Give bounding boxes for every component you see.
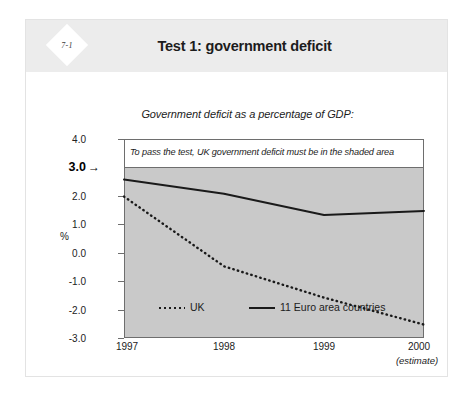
screenshot-root: 7-1 Test 1: government deficit Governmen… [0,0,473,397]
legend-label-euro: 11 Euro area countries [280,301,385,313]
page-title: Test 1: government deficit [26,20,447,72]
chart-series-svg [26,72,447,376]
x-tick-2000: 2000 [408,341,430,352]
series-euro-line [124,180,424,216]
card-header: 7-1 Test 1: government deficit [26,20,447,72]
legend-item-uk: UK [159,301,205,313]
slide-card: 7-1 Test 1: government deficit Governmen… [26,20,447,376]
card-body: Government deficit as a percentage of GD… [26,72,447,376]
legend-swatch-dotted-icon [159,302,185,312]
x-tick-1999: 1999 [313,341,335,352]
x-tick-2000-note: (estimate) [396,355,438,366]
y-tick-marks [118,140,124,339]
line-chart: To pass the test, UK government deficit … [26,72,447,376]
legend-item-euro: 11 Euro area countries [249,301,385,313]
x-tick-1997: 1997 [116,341,138,352]
x-tick-1998: 1998 [213,341,235,352]
legend-swatch-solid-icon [249,302,275,312]
legend-label-uk: UK [190,301,205,313]
